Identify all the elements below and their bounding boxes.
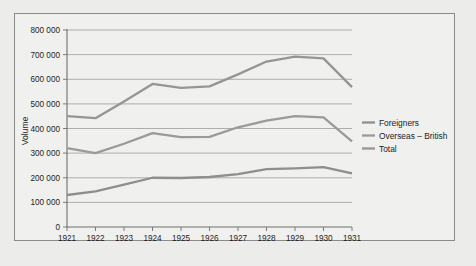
x-tick-label: 1930: [314, 234, 333, 241]
x-tick-label: 1925: [172, 234, 191, 241]
x-tick-label: 1928: [257, 234, 276, 241]
series-line-total[interactable]: [67, 57, 352, 119]
legend-label-total[interactable]: Total: [379, 144, 397, 154]
y-tick-label: 100 000: [30, 198, 60, 207]
x-tick-label: 1921: [58, 234, 77, 241]
x-tickmarks: [67, 227, 352, 231]
legend: Foreigners Overseas – British Total: [362, 118, 448, 154]
chart-figure: 800 000 700 000 600 000 500 000 400 000 …: [0, 0, 476, 266]
line-chart[interactable]: 800 000 700 000 600 000 500 000 400 000 …: [14, 13, 455, 241]
x-tick-label: 1922: [86, 234, 105, 241]
x-tick-labels: 1921 1922 1923 1924 1925 1926 1927 1928 …: [58, 234, 362, 241]
y-tick-label: 0: [55, 223, 60, 232]
y-tick-label: 700 000: [30, 51, 60, 60]
y-axis-title: Volume: [20, 116, 30, 145]
y-tick-label: 600 000: [30, 75, 60, 84]
x-tick-label: 1929: [286, 234, 305, 241]
x-tick-label: 1931: [343, 234, 362, 241]
legend-label-foreigners[interactable]: Foreigners: [379, 118, 419, 128]
y-tick-labels: 800 000 700 000 600 000 500 000 400 000 …: [30, 26, 60, 232]
y-tick-label: 200 000: [30, 174, 60, 183]
y-tick-label: 800 000: [30, 26, 60, 35]
y-tick-label: 400 000: [30, 125, 60, 134]
series-line-overseas-british[interactable]: [67, 116, 352, 153]
x-tick-label: 1927: [229, 234, 248, 241]
y-tick-label: 500 000: [30, 100, 60, 109]
y-tickmarks: [63, 30, 67, 227]
x-tick-label: 1924: [143, 234, 162, 241]
y-tick-label: 300 000: [30, 149, 60, 158]
series-line-foreigners[interactable]: [67, 167, 352, 195]
x-tick-label: 1926: [200, 234, 219, 241]
x-tick-label: 1923: [115, 234, 134, 241]
legend-label-overseas-british[interactable]: Overseas – British: [379, 131, 448, 141]
series-group: [67, 57, 352, 195]
